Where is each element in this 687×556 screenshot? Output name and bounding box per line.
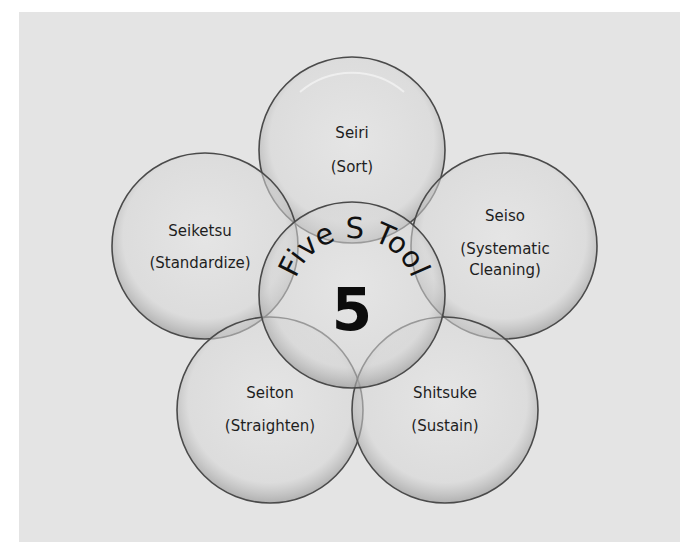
seiri-meaning: (Sort) [331,158,373,176]
seiso-meaning-line2: Cleaning) [469,261,541,279]
center-number: 5 [332,276,372,344]
seiso-meaning-line1: (Systematic [460,240,549,258]
five-s-venn-diagram: Seiri (Sort) Seiketsu (Standardize) Seis… [0,0,687,556]
shitsuke-label: Shitsuke [413,384,477,402]
seiso-label: Seiso [485,207,525,225]
seiketsu-label: Seiketsu [168,222,232,240]
shitsuke-meaning: (Sustain) [411,417,478,435]
seiton-label: Seiton [246,384,293,402]
seiri-label: Seiri [335,124,368,142]
seiketsu-meaning: (Standardize) [149,254,250,272]
seiton-meaning: (Straighten) [225,417,315,435]
